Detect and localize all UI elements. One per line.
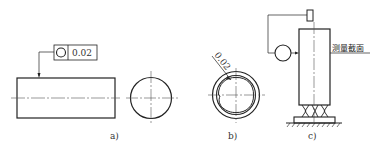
base-plate (294, 117, 335, 123)
circularity-icon (57, 48, 66, 57)
v-supports (302, 105, 328, 117)
figure-c-label: c) (308, 131, 317, 141)
top-center (307, 10, 313, 21)
dial-indicator-icon (275, 45, 291, 61)
ground-hatch (287, 123, 340, 127)
figure-b-dimension: 0.02 (212, 50, 232, 72)
figure-a-label: a) (110, 131, 119, 141)
indicator-frame (268, 15, 307, 53)
tolerance-value: 0.02 (72, 48, 92, 58)
figure-b-label: b) (228, 131, 237, 141)
measurement-section-label: 测量截面 (332, 43, 364, 53)
figure-c (268, 10, 370, 127)
technical-diagram: a) 0.02 0.02 b) (0, 0, 378, 150)
figure-b (208, 56, 265, 123)
leader-line (39, 52, 54, 76)
workpiece (299, 29, 330, 105)
figure-a (11, 45, 178, 125)
